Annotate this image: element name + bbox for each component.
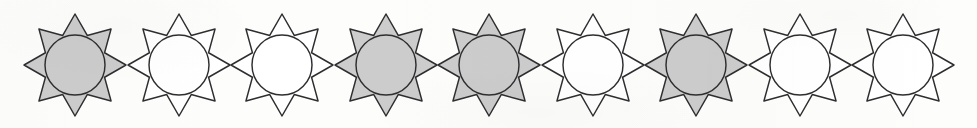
star-4 (334, 0, 438, 128)
star-9 (851, 0, 955, 128)
star-outline-3 (231, 14, 333, 116)
star-5-graphic (437, 0, 541, 128)
star-outline-7 (645, 14, 747, 116)
star-8 (748, 0, 852, 128)
star-outline-2 (128, 14, 230, 116)
star-3 (230, 0, 334, 128)
star-2-graphic (127, 0, 231, 128)
star-1-graphic (23, 0, 127, 128)
star-1 (23, 0, 127, 128)
star-2 (127, 0, 231, 128)
star-7-graphic (644, 0, 748, 128)
star-outline-4 (335, 14, 437, 116)
star-6 (541, 0, 645, 128)
star-3-graphic (230, 0, 334, 128)
star-outline-5 (438, 14, 540, 116)
star-7 (644, 0, 748, 128)
star-8-graphic (748, 0, 852, 128)
star-outline-6 (542, 14, 644, 116)
star-sequence-figure (0, 0, 977, 128)
star-outline-9 (852, 14, 954, 116)
star-9-graphic (851, 0, 955, 128)
star-6-graphic (541, 0, 645, 128)
star-5 (437, 0, 541, 128)
star-4-graphic (334, 0, 438, 128)
star-outline-8 (749, 14, 851, 116)
star-outline-1 (24, 14, 126, 116)
